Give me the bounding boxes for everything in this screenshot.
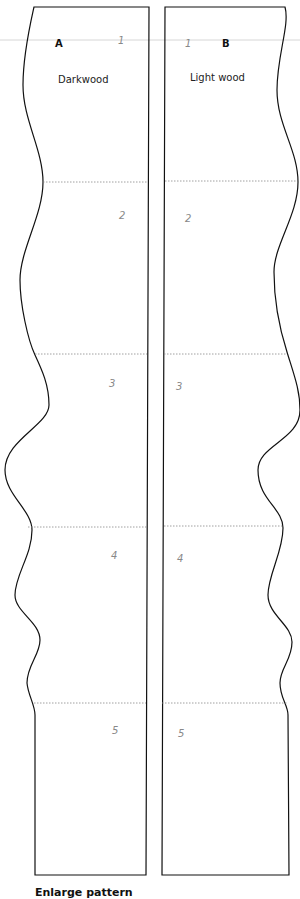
piece-a-section-5: 5 — [112, 725, 118, 736]
caption: Enlarge pattern — [35, 886, 133, 899]
piece-b-section-1: 1 — [185, 38, 191, 49]
piece-a-outline — [5, 7, 149, 875]
piece-b-section-3: 3 — [176, 381, 182, 392]
piece-a-section-3: 3 — [109, 378, 115, 389]
piece-b-material: Light wood — [190, 72, 245, 83]
piece-a-section-2: 2 — [119, 210, 125, 221]
piece-b-section-4: 4 — [177, 553, 183, 564]
pattern-diagram — [0, 0, 300, 899]
piece-b-section-2: 2 — [185, 213, 191, 224]
piece-a-dividers — [28, 182, 147, 703]
piece-b-section-5: 5 — [178, 728, 184, 739]
piece-b-dividers — [162, 181, 297, 703]
piece-b-letter: B — [222, 38, 230, 49]
piece-a-section-4: 4 — [111, 550, 117, 561]
piece-b-outline — [162, 7, 300, 875]
piece-a-material: Darkwood — [58, 74, 109, 85]
piece-a-letter: A — [55, 38, 63, 49]
piece-a-section-1: 1 — [118, 35, 124, 46]
